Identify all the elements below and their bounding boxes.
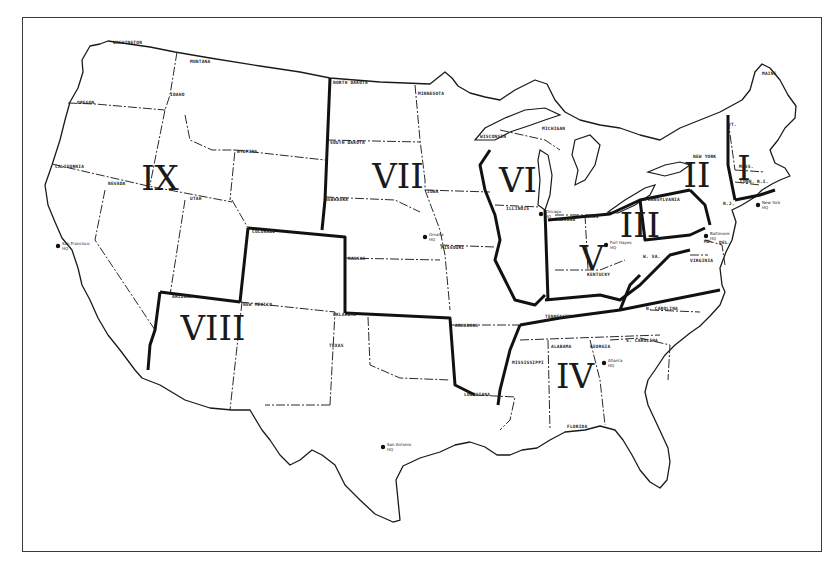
state-label: ALABAMA	[551, 344, 571, 349]
state-label: NEVADA	[108, 181, 126, 186]
hq-dot-icon	[602, 361, 606, 365]
state-label: FLORIDA	[567, 424, 587, 429]
hq-sub-label: HQ	[62, 246, 68, 251]
hq-marker: OmahaHQ	[423, 232, 444, 242]
state-label: NORTH DAKOTA	[333, 80, 368, 85]
state-label: IDAHO	[170, 92, 185, 97]
state-label: MONTANA	[190, 59, 210, 64]
hq-sub-label: HQ	[545, 214, 551, 219]
state-label: NEBRASKA	[325, 197, 348, 202]
state-label: LOUISIANA	[464, 392, 490, 397]
region-labels: IIIIIIIVVVIVIIVIIIIX	[141, 148, 751, 396]
state-label: ARKANSAS	[455, 323, 478, 328]
region-label-iv: IV	[556, 356, 595, 396]
state-label: OKLAHOMA	[333, 312, 356, 317]
hq-sub-label: HQ	[710, 236, 716, 241]
state-label: IOWA	[427, 189, 439, 194]
hq-marker: Fort HayesHQ	[604, 240, 632, 250]
state-label: MISSOURI	[441, 245, 464, 250]
region-label-vi: VI	[498, 160, 537, 200]
hq-sub-label: HQ	[429, 237, 435, 242]
hq-dot-icon	[56, 244, 60, 248]
hq-dot-icon	[423, 235, 427, 239]
state-label: MAINE	[762, 71, 777, 76]
region-label-vii: VII	[371, 156, 423, 196]
state-label: MINNESOTA	[418, 91, 444, 96]
state-label: ILLINOIS	[506, 206, 529, 211]
hq-marker: San FranciscoHQ	[56, 241, 90, 251]
state-label: MICHIGAN	[542, 126, 565, 131]
state-label: MISSISSIPPI	[512, 360, 544, 365]
hq-sub-label: HQ	[610, 245, 616, 250]
hq-sub-label: HQ	[387, 447, 393, 452]
state-label: VIRGINIA	[690, 258, 713, 263]
lake-huron	[572, 135, 600, 185]
hq-marker: AtlantaHQ	[602, 358, 623, 368]
state-label: CALIFORNIA	[55, 164, 84, 169]
state-label: INDIANA	[555, 217, 575, 222]
hq-dot-icon	[756, 203, 760, 207]
hq-dot-icon	[539, 212, 543, 216]
us-army-corps-areas-map: IIIIIIIVVVIVIIVIIIIX WASHINGTONMONTANAID…	[0, 0, 837, 563]
state-label: TEXAS	[329, 343, 344, 348]
state-label: S. CAROLINA	[626, 338, 658, 343]
state-label: MASS.	[739, 164, 754, 169]
region-label-ix: IX	[141, 158, 179, 198]
region-label-viii: VIII	[180, 308, 246, 348]
state-label: UTAH	[190, 196, 202, 201]
hq-sub-label: HQ	[608, 363, 614, 368]
state-label: TENNESSEE	[545, 314, 571, 319]
hq-sub-label: HQ	[762, 205, 768, 210]
state-label: R.I.	[757, 179, 769, 184]
hq-marker: New YorkHQ	[756, 200, 781, 210]
region-label-ii: II	[684, 155, 711, 195]
state-label: WASHINGTON	[113, 40, 142, 45]
state-label: ARIZONA	[172, 294, 192, 299]
region-label-iii: III	[620, 205, 660, 245]
hq-dot-icon	[604, 243, 608, 247]
lake-michigan	[538, 150, 552, 210]
hq-marker: San AntonioHQ	[381, 442, 412, 452]
state-label: SOUTH DAKOTA	[330, 140, 365, 145]
state-label: COLORADO	[252, 229, 275, 234]
state-label: WISCONSIN	[480, 134, 506, 139]
hq-dot-icon	[381, 445, 385, 449]
hq-dot-icon	[704, 234, 708, 238]
state-label: KENTUCKY	[587, 272, 610, 277]
state-label: N. CAROLINA	[646, 306, 678, 311]
state-label: PENNSYLVANIA	[645, 197, 680, 202]
state-label: WYOMING	[237, 149, 257, 154]
state-label: OREGON	[77, 100, 95, 105]
state-label: NEW YORK	[693, 154, 716, 159]
state-label: VT.	[728, 122, 737, 127]
state-label: NEW MEXICO	[243, 302, 272, 307]
state-label: DEL.	[719, 240, 731, 245]
state-label: N.J.	[723, 201, 735, 206]
state-label: GEORGIA	[590, 344, 610, 349]
state-label: CONN.	[740, 179, 755, 184]
state-label: OHIO	[587, 214, 599, 219]
state-label: W. VA.	[643, 254, 660, 259]
us-outline	[45, 41, 796, 522]
state-label: KANSAS	[348, 256, 366, 261]
